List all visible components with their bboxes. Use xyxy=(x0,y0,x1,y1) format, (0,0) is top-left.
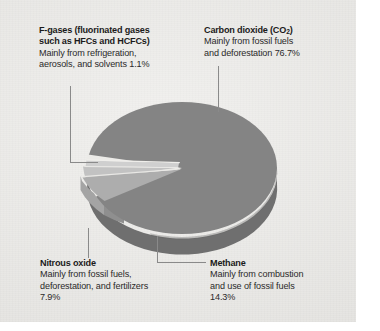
fgases-body-line1: Mainly from refrigeration, xyxy=(39,48,199,59)
leader-line-co2-vertical xyxy=(218,66,219,112)
figure-canvas: F-gases (fluorinated gases such as HFCs … xyxy=(0,0,380,331)
nitrous-oxide-body-line3: 7.9% xyxy=(40,292,190,303)
leader-line-fgases-vertical xyxy=(70,86,71,163)
fgases-heading-line1: F-gases (fluorinated gases xyxy=(39,25,199,36)
leader-line-fgases-horizontal xyxy=(70,162,98,163)
leader-line-nitrous-oxide-vertical xyxy=(88,228,89,258)
co2-heading-post: ) xyxy=(290,25,293,35)
fgases-body-line2: aerosols, and solvents 1.1% xyxy=(39,59,199,70)
nitrous-oxide-body-line2: deforestation, and fertilizers xyxy=(40,281,190,292)
co2-body-line1: Mainly from fossil fuels xyxy=(204,36,344,47)
callout-label-fgases: F-gases (fluorinated gases such as HFCs … xyxy=(39,25,199,71)
methane-body-line2: and use of fossil fuels xyxy=(210,281,350,292)
methane-heading: Methane xyxy=(210,258,350,269)
co2-heading: Carbon dioxide (CO2) xyxy=(204,25,344,36)
nitrous-oxide-heading: Nitrous oxide xyxy=(40,258,190,269)
callout-label-methane: Methane Mainly from combustion and use o… xyxy=(210,258,350,304)
co2-body-line2: and deforestation 76.7% xyxy=(204,48,344,59)
nitrous-oxide-body-line1: Mainly from fossil fuels, xyxy=(40,269,190,280)
fgases-heading-line2: such as HFCs and HCFCs) xyxy=(39,36,199,47)
methane-body-line1: Mainly from combustion xyxy=(210,269,350,280)
callout-label-nitrous-oxide: Nitrous oxide Mainly from fossil fuels, … xyxy=(40,258,190,304)
co2-heading-pre: Carbon dioxide (CO xyxy=(204,25,286,35)
methane-body-line3: 14.3% xyxy=(210,292,350,303)
callout-label-co2: Carbon dioxide (CO2) Mainly from fossil … xyxy=(204,25,344,59)
